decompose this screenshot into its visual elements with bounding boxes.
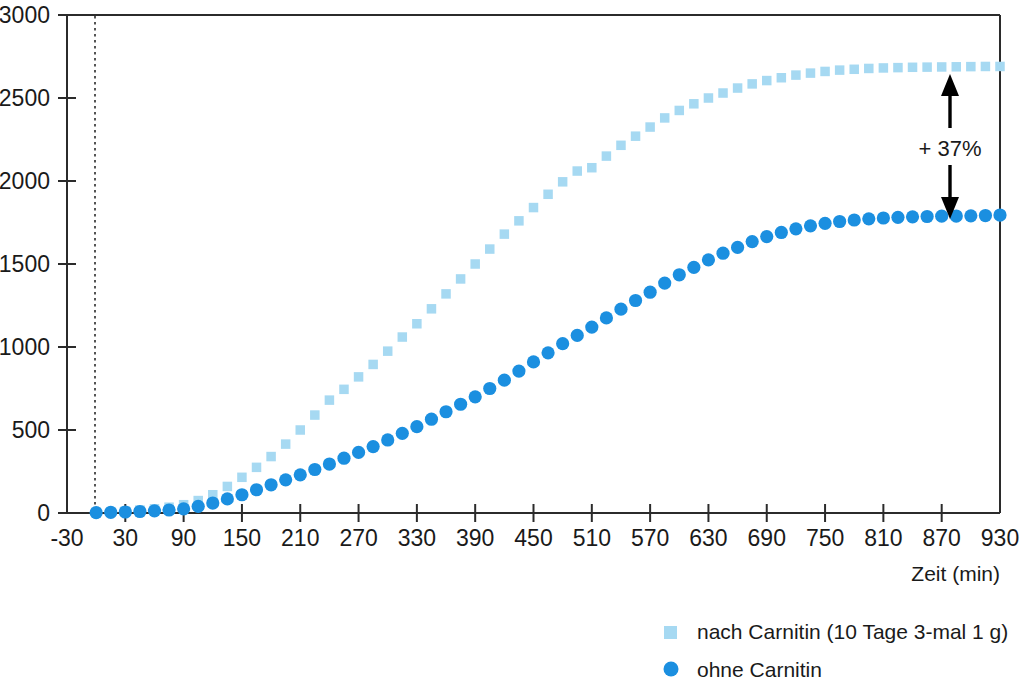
data-point-marker — [90, 506, 103, 519]
data-point-marker — [952, 62, 962, 72]
chart-canvas: 050010001500200025003000 -30309015021027… — [0, 0, 1030, 696]
x-tick-label: 30 — [113, 525, 139, 551]
data-point-marker — [704, 93, 714, 103]
data-point-marker — [354, 372, 364, 382]
data-point-marker — [470, 259, 480, 269]
data-point-marker — [469, 390, 482, 403]
data-point-marker — [279, 473, 292, 486]
data-point-marker — [104, 506, 117, 519]
data-point-marker — [629, 294, 642, 307]
data-point-marker — [718, 88, 728, 98]
legend-item-ohne-carnitin[interactable]: ohne Carnitin — [664, 658, 822, 681]
plot-frame — [67, 15, 1000, 513]
data-point-marker — [848, 213, 861, 226]
data-point-marker — [381, 433, 394, 446]
data-point-marker — [658, 276, 671, 289]
series-nach-carnitin — [91, 62, 1004, 517]
data-point-marker — [789, 222, 802, 235]
data-point-marker — [498, 374, 511, 387]
data-point-marker — [877, 211, 890, 224]
y-tick-label: 1500 — [0, 251, 50, 277]
x-tick-label: 210 — [281, 525, 319, 551]
data-point-marker — [383, 346, 393, 356]
data-point-marker — [558, 177, 568, 187]
x-tick-label: 450 — [514, 525, 552, 551]
data-point-marker — [425, 413, 438, 426]
data-point-marker — [891, 211, 904, 224]
data-point-marker — [716, 247, 729, 260]
data-point-marker — [585, 320, 598, 333]
data-point-marker — [806, 68, 816, 78]
data-point-marker — [367, 440, 380, 453]
percent-increase-annotation: + 37% — [919, 74, 982, 219]
x-tick-label: 810 — [864, 525, 902, 551]
chart-legend: nach Carnitin (10 Tage 3-mal 1 g) ohne C… — [664, 620, 1009, 681]
data-point-marker — [587, 163, 597, 173]
data-point-marker — [310, 410, 320, 420]
y-tick-label: 2000 — [0, 168, 50, 194]
data-point-marker — [162, 503, 175, 516]
x-axis-title: Zeit (min) — [911, 562, 1000, 585]
data-point-marker — [235, 488, 248, 501]
data-point-marker — [818, 217, 831, 230]
data-point-marker — [835, 65, 845, 75]
data-point-marker — [512, 364, 525, 377]
data-point-marker — [935, 210, 948, 223]
data-point-marker — [777, 73, 787, 83]
data-point-marker — [804, 219, 817, 232]
x-tick-label: 390 — [456, 525, 494, 551]
data-point-marker — [995, 62, 1005, 72]
y-tick-label: 2500 — [0, 85, 50, 111]
data-point-marker — [556, 337, 569, 350]
y-tick-label: 1000 — [0, 334, 50, 360]
annotation-percent-label: + 37% — [919, 136, 982, 161]
data-point-marker — [921, 210, 934, 223]
data-point-marker — [266, 452, 276, 462]
data-point-marker — [221, 492, 234, 505]
data-point-marker — [237, 473, 247, 483]
data-point-marker — [281, 439, 291, 449]
data-point-marker — [906, 210, 919, 223]
data-point-marker — [993, 208, 1006, 221]
data-point-marker — [687, 261, 700, 274]
data-point-marker — [308, 463, 321, 476]
annotation-arrow-up-head — [941, 74, 959, 96]
x-tick-label: 750 — [806, 525, 844, 551]
data-point-marker — [454, 398, 467, 411]
y-tick-label: 0 — [37, 500, 50, 526]
data-point-marker — [427, 304, 437, 314]
series-ohne-carnitin — [90, 208, 1007, 519]
data-point-marker — [879, 63, 889, 72]
data-point-marker — [206, 496, 219, 509]
data-point-marker — [614, 303, 627, 316]
data-point-marker — [689, 99, 699, 109]
data-point-marker — [849, 65, 859, 75]
data-point-marker — [337, 452, 350, 465]
data-point-marker — [908, 63, 918, 73]
data-point-marker — [762, 76, 772, 86]
legend-marker-circle-icon — [664, 662, 679, 677]
data-point-marker — [675, 106, 685, 116]
data-point-marker — [410, 420, 423, 433]
legend-label-ohne-carnitin: ohne Carnitin — [697, 658, 822, 681]
data-point-marker — [937, 62, 947, 72]
data-point-marker — [294, 468, 307, 481]
data-point-marker — [412, 319, 422, 329]
data-point-marker — [192, 500, 205, 513]
data-point-marker — [644, 286, 657, 299]
data-point-marker — [339, 385, 349, 395]
legend-item-nach-carnitin[interactable]: nach Carnitin (10 Tage 3-mal 1 g) — [664, 620, 1008, 643]
data-point-marker — [631, 131, 641, 141]
data-point-marker — [922, 62, 932, 72]
data-point-marker — [616, 141, 626, 151]
chart-figure: 050010001500200025003000 -30309015021027… — [0, 0, 1030, 696]
data-point-marker — [541, 346, 554, 359]
x-tick-label: 330 — [398, 525, 436, 551]
data-point-marker — [862, 212, 875, 225]
x-tick-label: 90 — [171, 525, 197, 551]
data-point-marker — [747, 79, 757, 89]
data-point-marker — [543, 190, 553, 200]
data-point-marker — [352, 446, 365, 459]
data-point-marker — [325, 395, 335, 405]
y-axis-ticks: 050010001500200025003000 — [0, 2, 76, 526]
